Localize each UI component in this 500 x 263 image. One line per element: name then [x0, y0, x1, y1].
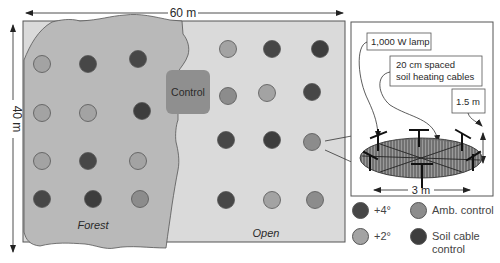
plot-circle: [80, 56, 97, 73]
plot-circle: [134, 103, 151, 120]
plus4-swatch-icon: [352, 202, 369, 219]
legend-label-line2: control: [432, 243, 465, 255]
plot-circle: [264, 41, 281, 58]
legend-item-soil-cable-control: Soil cable control: [410, 228, 480, 256]
legend-label-multiline: Soil cable control: [432, 228, 480, 256]
plot-circle: [304, 134, 321, 151]
control-box: Control: [166, 70, 210, 114]
plot-circle: [312, 41, 329, 58]
plot-circle: [264, 132, 281, 149]
plot-diameter-label: 3 m: [412, 184, 430, 196]
plot-circle: [304, 84, 321, 101]
cables-label-line1: 20 cm spaced: [396, 59, 455, 70]
legend-label-line1: Soil cable: [432, 230, 480, 242]
plot-circle: [34, 191, 51, 208]
legend-item-plus4: +4°: [352, 202, 391, 219]
plot-circle: [34, 105, 51, 122]
plot-circle: [220, 88, 237, 105]
plot-circle: [220, 41, 237, 58]
legend: +4° Amb. control +2° Soil cable control: [350, 200, 500, 260]
plot-circle: [130, 153, 147, 170]
plot-circle: [80, 105, 97, 122]
plot-circle: [264, 192, 281, 209]
amb-control-swatch-icon: [410, 202, 427, 219]
legend-label: +4°: [374, 202, 391, 217]
height-dimension: 40 m: [10, 25, 24, 252]
legend-label: Amb. control: [432, 202, 494, 217]
legend-item-plus2: +2°: [352, 228, 391, 245]
lamp-label: 1,000 W lamp: [371, 36, 430, 47]
legend-item-amb-control: Amb. control: [410, 202, 494, 219]
width-dimension: 60 m: [26, 6, 343, 20]
plot-circle: [218, 192, 235, 209]
height-label: 40 m: [10, 106, 24, 133]
forest-area: [24, 14, 189, 248]
plot-circle: [218, 132, 235, 149]
plot-circle: [85, 191, 102, 208]
open-label: Open: [253, 227, 280, 239]
width-label: 60 m: [170, 6, 197, 20]
cables-label-line2: soil heating cables: [396, 71, 474, 82]
plus2-swatch-icon: [352, 228, 369, 245]
plot-circle: [34, 56, 51, 73]
plot-circle: [259, 85, 276, 102]
lamp-height-label: 1.5 m: [456, 96, 480, 107]
forest-label: Forest: [77, 219, 109, 231]
soil-cable-control-swatch-icon: [410, 228, 427, 245]
plot-circle: [132, 191, 149, 208]
experimental-layout-diagram: 60 m 40 m Control: [0, 0, 500, 263]
legend-label: +2°: [374, 228, 391, 243]
plot-circle: [34, 153, 51, 170]
plot-circle: [130, 51, 147, 68]
plot-circle: [80, 153, 97, 170]
plot-circle: [307, 192, 324, 209]
control-label: Control: [171, 86, 205, 98]
